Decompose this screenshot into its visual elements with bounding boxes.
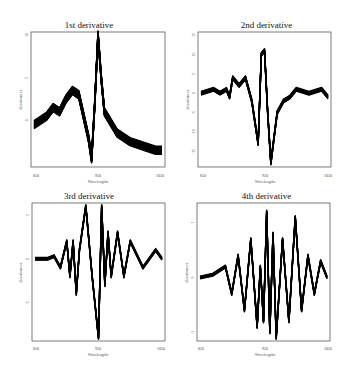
svg-text:5: 5 — [191, 73, 196, 75]
svg-text:850: 850 — [33, 346, 39, 351]
svg-text:Absorbances: Absorbances — [18, 89, 23, 110]
svg-text:1050: 1050 — [156, 173, 164, 178]
svg-text:5: 5 — [24, 77, 29, 79]
svg-text:950: 950 — [95, 173, 101, 178]
svg-text:950: 950 — [262, 346, 268, 351]
svg-text:-10: -10 — [191, 129, 196, 134]
chart-panel-4: 4th derivative -101 850 950 1050 Wavelen… — [178, 188, 355, 377]
svg-text:-5: -5 — [25, 301, 30, 304]
svg-text:850: 850 — [200, 173, 206, 178]
chart-plot-2: -15-10-5051015 850 950 1050 Wavelengths … — [178, 0, 355, 188]
chart-plot-3: -505 850 950 1050 Wavelengths Absorbance… — [0, 188, 178, 377]
svg-text:0: 0 — [190, 277, 195, 279]
svg-text:Wavelengths: Wavelengths — [255, 352, 276, 357]
svg-text:Absorbances: Absorbances — [185, 89, 190, 110]
svg-text:Wavelengths: Wavelengths — [88, 179, 109, 184]
svg-text:0: 0 — [191, 92, 196, 94]
svg-text:-15: -15 — [191, 149, 196, 154]
chart-panel-3: 3rd derivative -505 850 950 1050 Wavelen… — [0, 188, 178, 377]
svg-text:Wavelengths: Wavelengths — [88, 352, 109, 357]
svg-text:0: 0 — [24, 119, 29, 121]
chart-panel-1: 1st derivative 0510 850 950 1050 Wavelen… — [0, 0, 178, 188]
chart-plot-1: 0510 850 950 1050 Wavelengths Absorbance… — [0, 0, 178, 188]
svg-text:1050: 1050 — [157, 346, 165, 351]
svg-text:850: 850 — [198, 346, 204, 351]
svg-text:1050: 1050 — [324, 173, 332, 178]
svg-text:-5: -5 — [191, 111, 196, 114]
svg-text:950: 950 — [95, 346, 101, 351]
svg-text:15: 15 — [191, 33, 196, 37]
svg-text:Wavelengths: Wavelengths — [255, 179, 276, 184]
svg-text:0: 0 — [25, 258, 30, 260]
chart-panel-2: 2nd derivative -15-10-5051015 850 950 10… — [178, 0, 355, 188]
chart-plot-4: -101 850 950 1050 Wavelengths Absorbance… — [178, 188, 355, 377]
svg-text:10: 10 — [191, 52, 196, 56]
svg-text:Absorbances: Absorbances — [18, 262, 23, 283]
svg-text:5: 5 — [25, 214, 30, 216]
svg-text:850: 850 — [33, 173, 39, 178]
svg-text:Absorbances: Absorbances — [184, 262, 189, 283]
svg-text:1050: 1050 — [324, 346, 332, 351]
svg-text:1: 1 — [190, 222, 195, 224]
svg-text:-1: -1 — [190, 331, 195, 334]
svg-text:950: 950 — [262, 173, 268, 178]
svg-text:10: 10 — [24, 33, 29, 37]
